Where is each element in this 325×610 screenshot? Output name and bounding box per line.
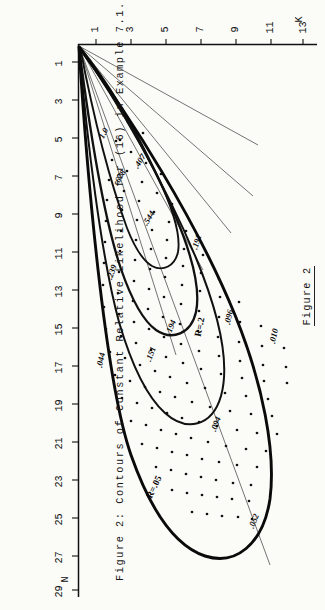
- y-tick-17: 17: [54, 361, 65, 373]
- y-tick-25: 25: [54, 513, 65, 525]
- y-tick-29: 29: [54, 585, 65, 597]
- figure-caption: Figure 2: Contours of Constant Relative …: [114, 21, 126, 581]
- y-tick-3: 3: [54, 98, 65, 104]
- n-axis-ticks: [72, 62, 79, 590]
- contour-inner-2: [79, 47, 197, 335]
- y-tick-1: 1: [54, 60, 65, 66]
- origin-rays: [79, 46, 270, 565]
- y-tick-7: 7: [54, 174, 65, 180]
- figure-page: K 1 3 5 7 9 11 13 1 3 5 7 9 11 13 15 17 …: [0, 0, 325, 610]
- y-tick-19: 19: [54, 399, 65, 411]
- y-tick-27: 27: [54, 551, 65, 563]
- y-tick-11: 11: [54, 247, 65, 259]
- x-tick-3: 3: [125, 26, 136, 32]
- y-tick-23: 23: [54, 475, 65, 487]
- x-tick-13: 13: [298, 21, 309, 33]
- k-axis-ticks: [96, 39, 303, 45]
- y-tick-21: 21: [54, 437, 65, 449]
- y-tick-9: 9: [54, 212, 65, 218]
- y-axis-label: N: [60, 576, 71, 582]
- x-tick-11: 11: [265, 21, 276, 33]
- figure-title-text: Figure 2: [301, 266, 315, 325]
- x-tick-5: 5: [160, 26, 171, 32]
- y-tick-13: 13: [54, 285, 65, 297]
- x-tick-1: 1: [90, 26, 101, 32]
- x-tick-9: 9: [230, 26, 241, 32]
- contour-plot-svg: [0, 0, 325, 610]
- figure-title: Figure 2: [301, 236, 313, 356]
- y-tick-15: 15: [54, 323, 65, 335]
- x-tick-7: 7: [195, 26, 206, 32]
- y-tick-5: 5: [54, 136, 65, 142]
